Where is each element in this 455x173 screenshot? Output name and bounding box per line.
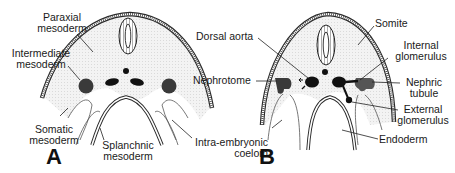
label-line: coelom <box>186 148 268 159</box>
label-nephric-tubule: Nephric tubule <box>400 77 448 99</box>
label-splanchnic-mesoderm: Splanchnic mesoderm <box>100 140 156 162</box>
label-line: mesoderm <box>100 151 156 162</box>
label-somite: Somite <box>375 18 408 29</box>
label-line: glomerulus <box>390 51 452 62</box>
label-paraxial-mesoderm: Paraxial mesoderm <box>34 12 90 34</box>
label-external-glomerulus: External glomerulus <box>392 104 454 126</box>
panel-label-b: B <box>259 144 275 170</box>
label-nephrotome: Nephrotome <box>193 75 251 86</box>
panel-b-embryo <box>256 14 400 150</box>
label-internal-glomerulus: Internal glomerulus <box>390 40 452 62</box>
panel-label-a: A <box>46 144 62 170</box>
label-line: tubule <box>400 88 448 99</box>
label-intra-embryonic-coelom: Intra-embryonic coelom <box>186 137 268 159</box>
label-line: mesoderm <box>8 59 74 70</box>
label-dorsal-aorta: Dorsal aorta <box>196 31 253 42</box>
label-endoderm: Endoderm <box>379 134 427 145</box>
label-intermediate-mesoderm: Intermediate mesoderm <box>8 48 74 70</box>
label-somatic-mesoderm: Somatic mesoderm <box>26 124 82 146</box>
label-line: glomerulus <box>392 115 454 126</box>
label-line: mesoderm <box>34 23 90 34</box>
